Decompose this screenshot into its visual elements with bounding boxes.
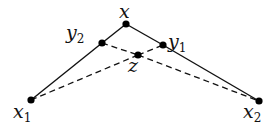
dashed-edge-z-x2 (138, 55, 259, 101)
labels: xy2y1zx1x2 (13, 0, 261, 125)
label-y2-subscript: 2 (77, 32, 85, 46)
label-x: x (119, 0, 130, 22)
label-y2: y2 (65, 21, 84, 46)
label-y1-subscript: 1 (179, 41, 187, 55)
solid-edge-x-y1 (126, 24, 163, 45)
point-y2 (98, 39, 105, 46)
dashed-edge-z-y1 (138, 45, 163, 55)
label-x1-subscript: 1 (24, 111, 32, 125)
point-x1 (27, 96, 34, 103)
point-x2 (255, 97, 262, 104)
label-x1: x1 (13, 100, 31, 125)
diagram-canvas: xy2y1zx1x2 (0, 0, 278, 126)
points (27, 20, 262, 104)
solid-edge-y2-x (102, 24, 126, 43)
label-x2-subscript: 2 (254, 111, 262, 125)
solid-edge-y1-x2 (163, 45, 259, 101)
label-y1: y1 (167, 30, 186, 55)
label-z: z (127, 54, 139, 76)
solid-edge-x1-y2 (31, 43, 102, 100)
dashed-edge-x1-z (31, 55, 138, 100)
point-y1 (159, 41, 166, 48)
